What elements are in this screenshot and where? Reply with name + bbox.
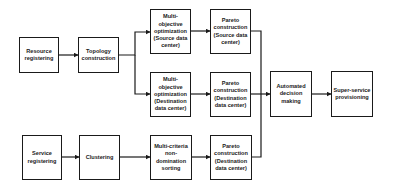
node-topology-construction: Topology construction bbox=[78, 37, 119, 73]
node-clustering: Clustering bbox=[79, 135, 120, 180]
node-label: Topology construction bbox=[80, 48, 117, 63]
node-pareto-destination-bottom: Pareto construction (Destination data ce… bbox=[210, 135, 252, 180]
node-label: Multi-objective optimization (Destinatio… bbox=[152, 76, 189, 112]
node-label: Pareto construction (Destination data ce… bbox=[212, 143, 250, 172]
node-label: Automated decision making bbox=[272, 83, 310, 105]
node-label: Super-service provisioning bbox=[333, 87, 371, 102]
node-pareto-source: Pareto construction (Source data center) bbox=[210, 9, 251, 54]
node-label: Service registering bbox=[24, 150, 60, 165]
node-pareto-destination-mid: Pareto construction (Destination data ce… bbox=[210, 72, 251, 117]
node-label: Multi-criteria non-domination sorting bbox=[152, 143, 190, 172]
node-service-registering: Service registering bbox=[22, 135, 62, 180]
node-label: Pareto construction (Destination data ce… bbox=[212, 80, 249, 109]
node-label: Multi-objective optimization (Source dat… bbox=[152, 13, 189, 49]
edge-topology-to-moo-destination bbox=[135, 55, 150, 94]
node-automated-decision: Automated decision making bbox=[270, 71, 312, 117]
node-label: Clustering bbox=[86, 154, 114, 161]
node-label: Pareto construction (Source data center) bbox=[212, 17, 249, 46]
edge-topology-to-moo-source bbox=[119, 32, 150, 55]
node-resource-registering: Resource registering bbox=[19, 37, 59, 73]
edge-pareto-source-to-decision bbox=[251, 31, 261, 94]
node-multi-criteria: Multi-criteria non-domination sorting bbox=[150, 135, 192, 180]
node-label: Resource registering bbox=[21, 48, 57, 63]
node-moo-source: Multi-objective optimization (Source dat… bbox=[150, 9, 191, 54]
node-moo-destination: Multi-objective optimization (Destinatio… bbox=[150, 72, 191, 117]
node-super-service: Super-service provisioning bbox=[331, 71, 373, 117]
edge-pareto-bottom-to-decision bbox=[252, 94, 261, 157]
